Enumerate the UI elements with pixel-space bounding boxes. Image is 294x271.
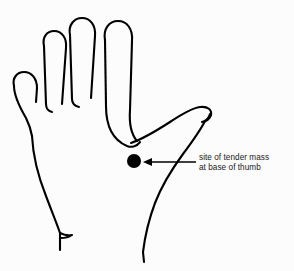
- annotation-line-2: at base of thumb: [199, 163, 293, 173]
- leader-arrow-head: [143, 158, 152, 166]
- leader-arrow: [143, 158, 196, 166]
- tender-mass-marker-dot: [127, 154, 141, 168]
- hand-diagram-figure: site of tender mass at base of thumb: [0, 0, 294, 271]
- annotation-label: site of tender mass at base of thumb: [199, 153, 293, 173]
- hand-contour: [14, 18, 212, 262]
- annotation-line-1: site of tender mass: [199, 153, 293, 163]
- hand-outline-drawing: [0, 0, 294, 271]
